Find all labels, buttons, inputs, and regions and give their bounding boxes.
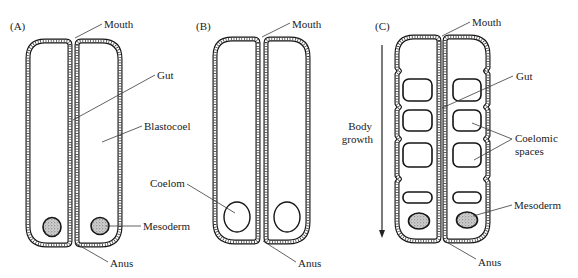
panel-a-tube-left xyxy=(28,41,70,245)
panel-c-anus-label: Anus xyxy=(478,256,501,268)
panel-b-mouth-label: Mouth xyxy=(292,18,322,30)
panel-c-mesoderm-leader xyxy=(473,205,512,216)
panel-a-mouth-leader xyxy=(75,24,102,38)
panel-b-anus-label: Anus xyxy=(298,257,321,269)
panel-c-mouth-leader xyxy=(442,22,470,36)
coelomic-space xyxy=(453,143,481,167)
panel-c-mesoderm-right xyxy=(457,212,478,228)
panel-c-mesoderm-left xyxy=(409,213,430,229)
coelomic-space xyxy=(403,192,432,203)
coelomic-space xyxy=(403,110,432,131)
coelomic-space xyxy=(453,192,481,203)
panel-a-mouth-label: Mouth xyxy=(104,18,134,30)
coelom-formation-diagram: (A) Mouth Gut Blastocoel Mesoderm Anus (… xyxy=(0,0,578,278)
panel-a-mesoderm-left xyxy=(43,218,61,237)
panel-a-tube-right xyxy=(77,41,120,245)
body-growth-arrow xyxy=(379,45,385,238)
body-growth-label-line2: growth xyxy=(342,133,374,145)
panel-a: (A) Mouth Gut Blastocoel Mesoderm Anus xyxy=(10,18,190,269)
coelomic-space xyxy=(403,143,432,167)
panel-c-mouth-label: Mouth xyxy=(472,16,502,28)
coelomic-space xyxy=(453,79,481,101)
panel-c-coelomic-spaces-label-line2: spaces xyxy=(515,145,544,157)
panel-a-gut-leader xyxy=(73,75,155,120)
panel-a-label: (A) xyxy=(10,20,26,33)
panel-a-gut-label: Gut xyxy=(157,69,174,81)
panel-b-coelom-left xyxy=(224,202,250,232)
panel-a-anus-label: Anus xyxy=(110,257,133,269)
panel-c-tube-right xyxy=(445,37,488,241)
panel-b-coelom-label: Coelom xyxy=(150,177,185,189)
panel-a-blastocoel-label: Blastocoel xyxy=(144,120,190,132)
panel-b-label: (B) xyxy=(196,20,211,33)
panel-c-mesoderm-label: Mesoderm xyxy=(514,199,561,211)
panel-c-coelomic-spaces-right xyxy=(453,79,481,203)
panel-c: (C) Body growth Mou xyxy=(342,16,562,268)
arrow-down-icon xyxy=(379,230,385,238)
panel-b-coelom-right xyxy=(274,202,300,232)
coelomic-space xyxy=(403,79,432,101)
panel-b-coelom-leader xyxy=(187,184,235,213)
panel-c-label: (C) xyxy=(375,20,390,33)
body-growth-label-line1: Body xyxy=(348,120,372,132)
diagram-canvas: (A) Mouth Gut Blastocoel Mesoderm Anus (… xyxy=(0,0,578,278)
panel-c-tube-left xyxy=(397,37,439,241)
coelomic-space xyxy=(453,110,481,131)
panel-b-mouth-leader xyxy=(262,23,290,37)
panel-c-coelomic-spaces-left xyxy=(403,79,432,203)
panel-c-coelomic-spaces-label-line1: Coelomic xyxy=(515,132,558,144)
panel-a-mesoderm-label: Mesoderm xyxy=(143,220,190,232)
panel-c-gut-label: Gut xyxy=(516,70,533,82)
